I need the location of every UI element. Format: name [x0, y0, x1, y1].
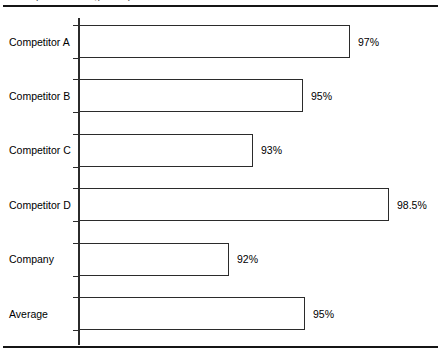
bar-row: Competitor A97%: [0, 25, 441, 58]
bar-rect: [79, 134, 253, 167]
axis-tick: [73, 243, 79, 244]
axis-tick: [73, 330, 79, 331]
bar-value-label: 95%: [311, 90, 332, 102]
category-axis-line: [78, 18, 80, 345]
bar-value-label: 95%: [313, 308, 334, 320]
axis-tick: [73, 25, 79, 26]
plot-area: Competitor A97%Competitor B95%Competitor…: [0, 0, 441, 355]
axis-tick: [73, 276, 79, 277]
bar-category-label: Competitor D: [9, 199, 71, 211]
bar-value-label: 97%: [358, 36, 379, 48]
bar-rect: [79, 243, 229, 276]
axis-tick: [73, 188, 79, 189]
axis-tick: [73, 79, 79, 80]
bar-category-label: Average: [9, 308, 48, 320]
bar-category-label: Company: [9, 253, 54, 265]
bar-category-label: Competitor B: [9, 90, 70, 102]
axis-tick: [73, 134, 79, 135]
bar-category-label: Competitor A: [9, 36, 70, 48]
axis-tick: [73, 297, 79, 298]
bar-row: Average95%: [0, 297, 441, 330]
bar-row: Competitor D98.5%: [0, 188, 441, 221]
bar-rect: [79, 79, 303, 112]
bar-value-label: 93%: [261, 144, 282, 156]
bar-value-label: 98.5%: [397, 199, 427, 211]
bar-row: Competitor C93%: [0, 134, 441, 167]
axis-tick: [73, 112, 79, 113]
axis-tick: [73, 221, 79, 222]
axis-tick: [73, 167, 79, 168]
bar-rect: [79, 188, 389, 221]
axis-tick: [73, 58, 79, 59]
bar-chart-figure: parison of regulatory Competitor A97%Com…: [0, 0, 441, 355]
bar-rect: [79, 25, 350, 58]
bar-category-label: Competitor C: [9, 144, 71, 156]
bottom-divider-rule: [3, 346, 438, 348]
bar-row: Competitor B95%: [0, 79, 441, 112]
bar-rect: [79, 297, 305, 330]
bar-value-label: 92%: [237, 253, 258, 265]
bar-row: Company92%: [0, 243, 441, 276]
